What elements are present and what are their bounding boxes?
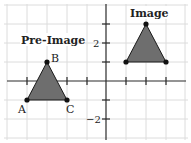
vertex-label-c: C	[66, 103, 74, 116]
vertex-label-b: B	[51, 52, 59, 65]
vertex-a	[24, 97, 29, 102]
image-vertex-1	[123, 59, 128, 64]
vertex-label-a: A	[17, 103, 27, 116]
image-vertex-3	[163, 59, 168, 64]
pre-image-title: Pre-Image	[21, 34, 85, 47]
coordinate-plane: 2 −2 Pre-Image Image B A C	[0, 0, 191, 143]
y-tick-label-neg2: −2	[86, 114, 101, 125]
y-tick-label-2: 2	[93, 38, 99, 49]
vertex-c	[64, 97, 69, 102]
image-title: Image	[130, 7, 169, 20]
image-vertex-2	[143, 21, 148, 26]
vertex-b	[44, 59, 49, 64]
